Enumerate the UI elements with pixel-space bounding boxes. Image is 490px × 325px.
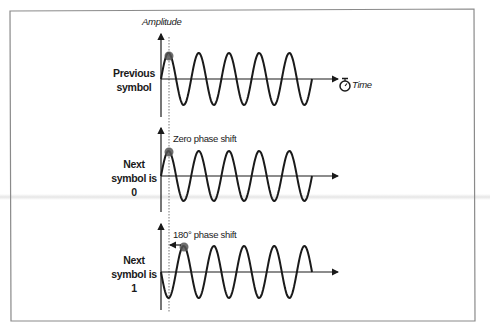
180-phase-shift-annotation: 180° phase shift — [173, 229, 236, 240]
y-axis-label: Amplitude — [142, 16, 182, 27]
figure-frame — [10, 9, 475, 321]
panel-previous-label: Previous symbol — [99, 66, 169, 94]
panel-next1-label: Next symbol is 1 — [99, 253, 169, 295]
zero-phase-shift-annotation: Zero phase shift — [173, 133, 236, 144]
panel-next0-label: Next symbol is 0 — [99, 157, 169, 199]
phase-shift-diagram: Amplitude Time Previous symbol Next symb… — [0, 0, 490, 325]
panel-previous-axes — [161, 34, 338, 117]
panel-next1-marker — [180, 243, 189, 252]
x-axis-label: Time — [352, 79, 372, 90]
panel-next0-marker — [165, 148, 174, 157]
diagram-canvas — [0, 0, 490, 325]
panel-previous-marker — [165, 52, 174, 61]
stopwatch-icon — [340, 79, 350, 92]
